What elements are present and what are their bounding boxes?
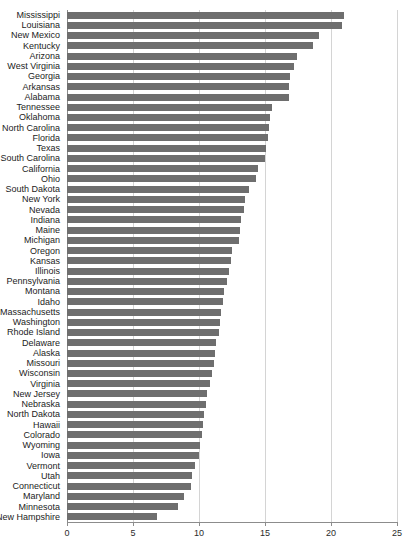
category-label: Louisiana <box>21 20 60 30</box>
category-label: Hawaii <box>33 420 60 430</box>
category-label: Alaska <box>33 348 60 358</box>
bar <box>67 114 270 121</box>
x-tick-label: 25 <box>392 528 402 538</box>
bar <box>67 309 221 316</box>
category-label: Massachusetts <box>0 307 60 317</box>
bar-row <box>67 215 397 225</box>
bar <box>67 360 214 367</box>
bar <box>67 298 223 305</box>
category-label: Nevada <box>29 205 60 215</box>
bar <box>67 247 232 254</box>
bar-row <box>67 41 397 51</box>
x-tick-label: 0 <box>64 528 69 538</box>
category-label: Oregon <box>30 246 60 256</box>
bar <box>67 63 294 70</box>
bar-row <box>67 338 397 348</box>
bar <box>67 206 244 213</box>
category-label: Wisconsin <box>19 368 60 378</box>
bar <box>67 257 231 264</box>
bar-row <box>67 143 397 153</box>
category-label: Arkansas <box>22 82 60 92</box>
category-label: Connecticut <box>12 481 60 491</box>
gridline-25 <box>397 10 398 522</box>
bar-rows <box>67 10 397 522</box>
category-label: Georgia <box>28 71 60 81</box>
category-label: Nebraska <box>21 399 60 409</box>
x-tick-label: 5 <box>130 528 135 538</box>
category-label: Texas <box>36 143 60 153</box>
bar <box>67 462 195 469</box>
category-label: Tennessee <box>16 102 60 112</box>
category-label: Missouri <box>26 358 60 368</box>
bar <box>67 431 202 438</box>
bar-row <box>67 368 397 378</box>
category-label: Utah <box>41 471 60 481</box>
bar-row <box>67 276 397 286</box>
bar <box>67 104 272 111</box>
bar-row <box>67 82 397 92</box>
bar <box>67 390 207 397</box>
bar <box>67 472 192 479</box>
category-label: North Carolina <box>2 123 60 133</box>
bar-row <box>67 440 397 450</box>
category-label: Virginia <box>30 379 60 389</box>
bar-row <box>67 102 397 112</box>
bar <box>67 165 258 172</box>
plot-area <box>67 10 397 522</box>
category-label: Delaware <box>22 338 60 348</box>
bar-row <box>67 461 397 471</box>
bar <box>67 227 240 234</box>
bar-row <box>67 256 397 266</box>
bar-row <box>67 10 397 20</box>
bar <box>67 503 178 510</box>
bar <box>67 216 241 223</box>
bar <box>67 134 268 141</box>
bar-row <box>67 430 397 440</box>
bar <box>67 421 203 428</box>
tick-mark-15 <box>265 522 266 526</box>
category-label: Washington <box>13 317 60 327</box>
bar <box>67 12 344 19</box>
bar <box>67 124 269 131</box>
category-label: Maine <box>35 225 60 235</box>
bar-row <box>67 71 397 81</box>
bar-row <box>67 133 397 143</box>
x-axis-line <box>67 522 398 523</box>
bar-row <box>67 123 397 133</box>
bar <box>67 493 184 500</box>
bar-row <box>67 399 397 409</box>
category-label: Pennsylvania <box>6 276 60 286</box>
category-label: Indiana <box>30 215 60 225</box>
category-label: Rhode Island <box>7 327 60 337</box>
bar-row <box>67 389 397 399</box>
bar-row <box>67 481 397 491</box>
tick-mark-0 <box>67 522 68 526</box>
category-label: Vermont <box>26 461 60 471</box>
bar <box>67 513 157 520</box>
bar-row <box>67 317 397 327</box>
bar <box>67 32 319 39</box>
bar-row <box>67 30 397 40</box>
bar <box>67 268 229 275</box>
bar-row <box>67 471 397 481</box>
category-label: South Carolina <box>0 153 60 163</box>
bar-row <box>67 491 397 501</box>
tick-mark-20 <box>331 522 332 526</box>
bar-row <box>67 246 397 256</box>
bar-row <box>67 450 397 460</box>
bar-row <box>67 379 397 389</box>
category-label: Ohio <box>41 174 60 184</box>
category-label: Wyoming <box>23 440 60 450</box>
bar <box>67 401 206 408</box>
category-label: Colorado <box>23 430 60 440</box>
bar <box>67 370 212 377</box>
bar-row <box>67 184 397 194</box>
bar-row <box>67 174 397 184</box>
category-label: Florida <box>32 133 60 143</box>
bar-row <box>67 20 397 30</box>
category-label: Illinois <box>35 266 60 276</box>
bar-row <box>67 409 397 419</box>
category-label: New Jersey <box>13 389 60 399</box>
category-axis-labels: MississippiLouisianaNew MexicoKentuckyAr… <box>0 10 64 522</box>
bar-row <box>67 286 397 296</box>
